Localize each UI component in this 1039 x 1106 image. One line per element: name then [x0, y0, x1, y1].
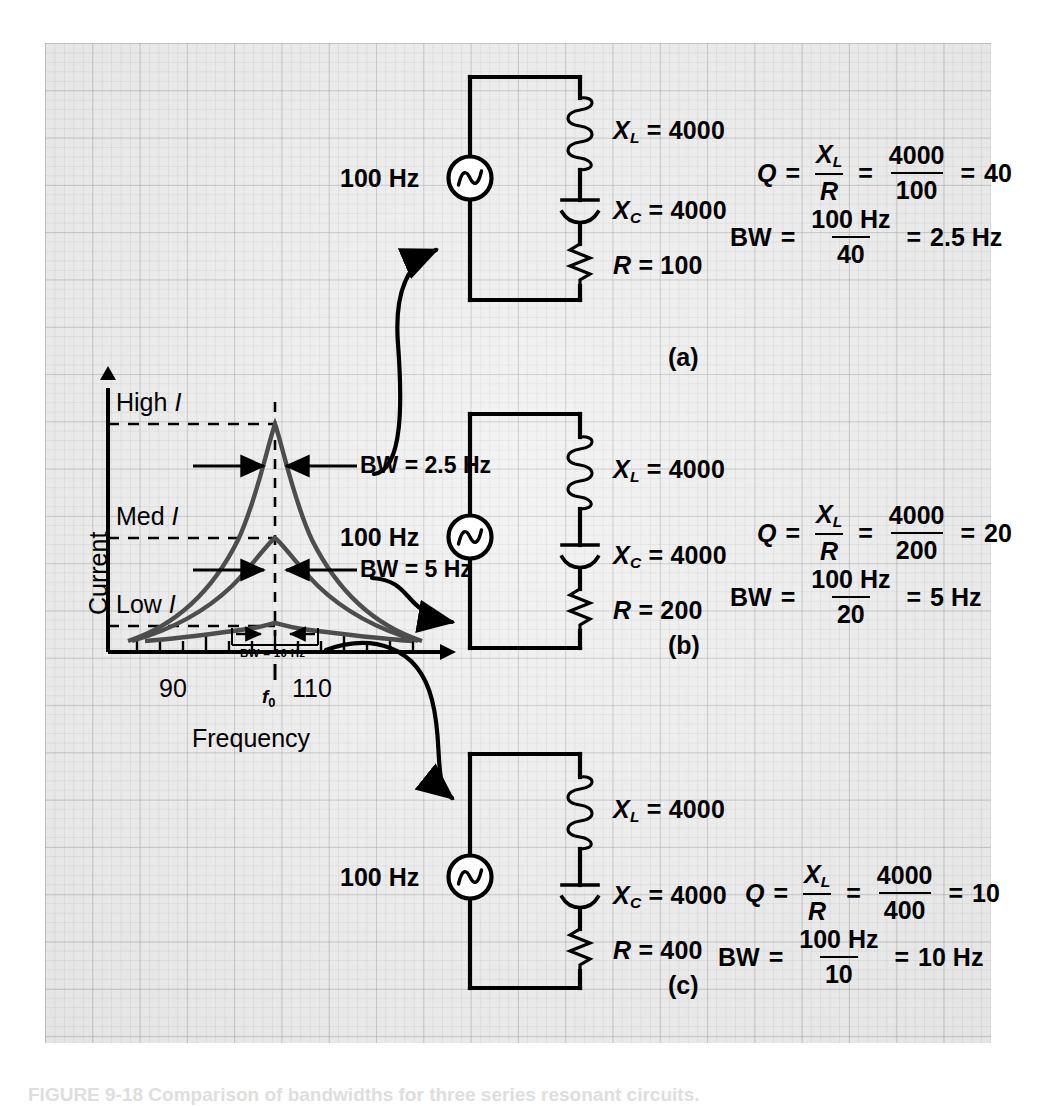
q-equation-a: Q= XL R = 4000 100 =40 [757, 140, 1012, 206]
circuit-c [449, 754, 599, 988]
bw-equation-a: BW= 100 Hz 40 =2.5 Hz [730, 205, 1002, 269]
panel-label-c: (c) [668, 973, 699, 998]
q-equation-b: Q= XL R = 4000 200 =20 [757, 500, 1012, 566]
y-tick-high: High I [116, 390, 181, 415]
y-tick-low: Low I [116, 592, 176, 617]
x-axis-label: Frequency [192, 726, 310, 751]
xl-label-b: XL = 4000 [613, 457, 725, 485]
r-label-b: R = 200 [613, 598, 703, 623]
figure-caption: FIGURE 9-18 Comparison of bandwidths for… [28, 1084, 699, 1106]
bw-annotation-10: BW = 10 Hz [240, 648, 305, 660]
r-label-a: R = 100 [613, 253, 703, 278]
xc-label-c: XC = 4000 [613, 883, 727, 911]
y-axis-label: Current [84, 532, 113, 615]
source-label-a: 100 Hz [340, 166, 419, 191]
bw-equation-c: BW= 100 Hz 10 =10 Hz [718, 925, 983, 989]
connector-arrow-to-circuit-a [374, 250, 436, 474]
connector-arrow-to-circuit-c [326, 643, 452, 798]
xl-label-a: XL = 4000 [613, 118, 725, 146]
xc-label-a: XC = 4000 [613, 198, 727, 226]
bw-equation-b: BW= 100 Hz 20 =5 Hz [730, 565, 982, 629]
source-label-b: 100 Hz [340, 525, 419, 550]
bw-annotation-2_5: BW = 2.5 Hz [360, 454, 491, 477]
q-equation-c: Q= XL R = 4000 400 =10 [745, 860, 1000, 926]
xc-label-b: XC = 4000 [613, 543, 727, 571]
connector-arrow-to-circuit-b [372, 578, 452, 622]
r-label-c: R = 400 [613, 938, 703, 963]
circuit-a [449, 77, 599, 300]
y-tick-med: Med I [116, 504, 179, 529]
panel-label-a: (a) [668, 345, 699, 370]
x-tick-110: 110 [292, 676, 332, 701]
source-label-c: 100 Hz [340, 865, 419, 890]
panel-label-b: (b) [668, 633, 700, 658]
circuit-b [449, 414, 599, 648]
x-tick-90: 90 [159, 676, 187, 701]
xl-label-c: XL = 4000 [613, 797, 725, 825]
bw-annotation-5: BW = 5 Hz [360, 558, 472, 581]
f0-label: f0 [262, 687, 276, 710]
